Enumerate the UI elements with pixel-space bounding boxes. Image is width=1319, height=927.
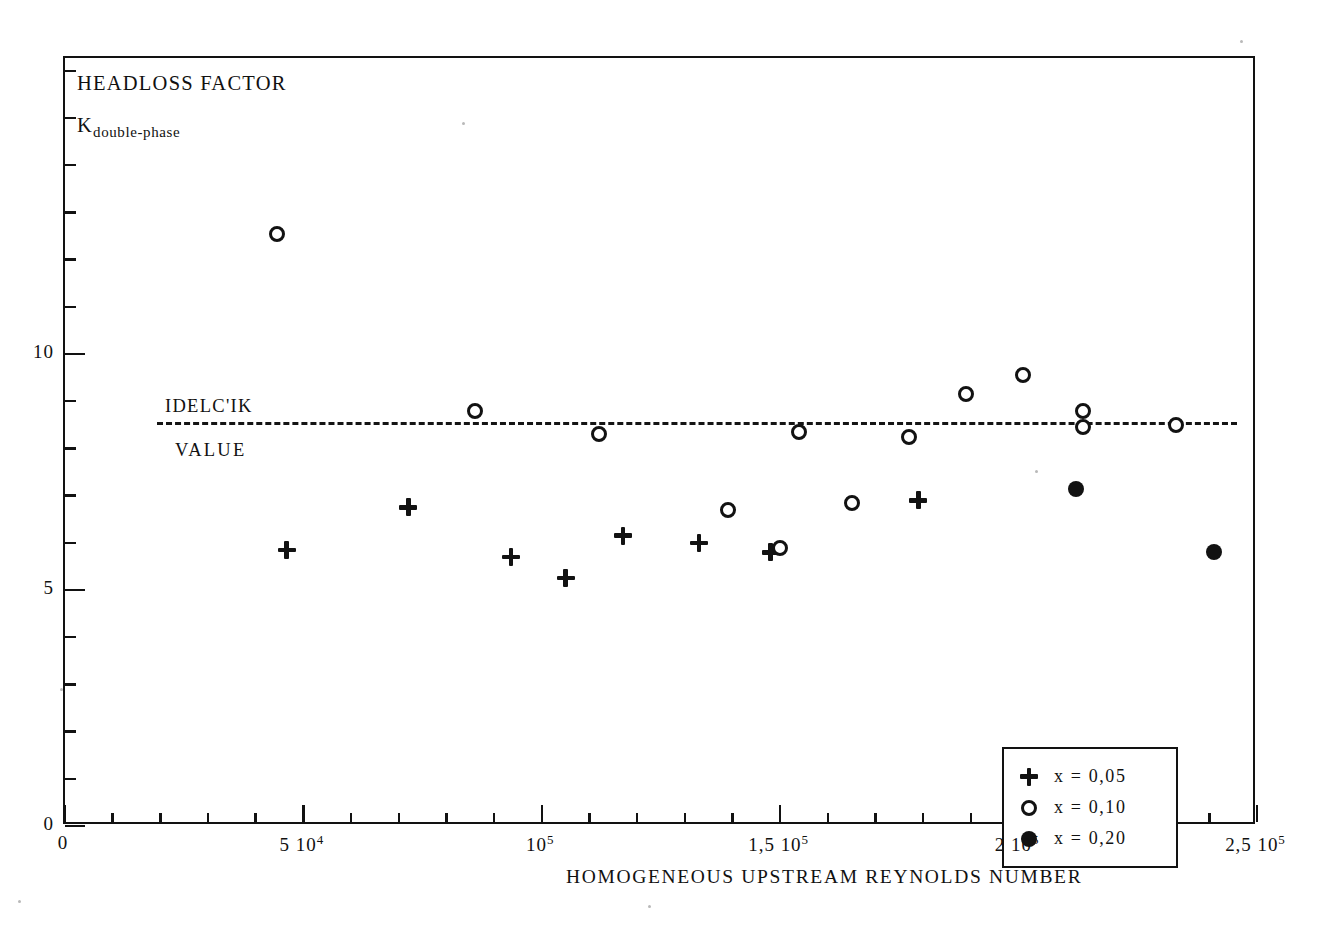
x-tick-minor [207, 813, 210, 822]
legend-label: x = 0,05 [1054, 766, 1127, 787]
y-tick-minor [65, 542, 76, 545]
x-tick-major [1256, 805, 1259, 822]
y-tick-minor [65, 636, 76, 639]
x-tick-label: 1,5 105 [748, 832, 808, 856]
open-circle-marker [791, 424, 807, 440]
y-tick-major [65, 589, 85, 592]
legend-item: x = 0,05 [1018, 761, 1172, 792]
scan-speck [1035, 470, 1038, 473]
y-tick-minor [65, 447, 76, 450]
open-circle-marker [269, 226, 285, 242]
y-tick-minor [65, 258, 76, 261]
x-tick-major [64, 805, 67, 822]
legend-label: x = 0,20 [1054, 828, 1127, 849]
x-tick-label: 5 104 [280, 832, 324, 856]
x-tick-minor [731, 813, 734, 822]
y-axis-title-symbol: K [77, 114, 93, 136]
x-tick-label: 2,5 105 [1225, 832, 1285, 856]
filled-circle-marker [1206, 544, 1222, 560]
x-tick-minor [445, 813, 448, 822]
y-tick-minor [65, 211, 76, 214]
x-tick-minor [588, 813, 591, 822]
x-tick-minor [1208, 813, 1211, 822]
filled-circle-marker [1068, 481, 1084, 497]
y-tick-label: 0 [14, 813, 54, 835]
x-tick-minor [159, 813, 162, 822]
y-tick-minor [65, 117, 76, 120]
x-tick-minor [827, 813, 830, 822]
open-circle-marker [591, 426, 607, 442]
plus-marker [277, 540, 297, 560]
open-circle-marker [901, 429, 917, 445]
legend-swatch [1018, 766, 1040, 788]
x-tick-minor [493, 813, 496, 822]
idelcik-reference-label-top: IDELC'IK [165, 396, 253, 417]
y-axis-title-line2: Kdouble-phase [77, 114, 180, 141]
scan-speck [648, 905, 651, 908]
x-tick-minor [922, 813, 925, 822]
y-tick-minor [65, 164, 76, 167]
x-tick-label: 2 105 [995, 832, 1039, 856]
plot-frame: HEADLOSS FACTOR Kdouble-phase IDELC'IK V… [63, 56, 1255, 824]
x-tick-minor [684, 813, 687, 822]
y-tick-minor [65, 494, 76, 497]
y-tick-label: 5 [14, 577, 54, 599]
legend-label: x = 0,10 [1054, 797, 1127, 818]
x-tick-major [779, 805, 782, 822]
scan-speck [1240, 40, 1243, 43]
x-tick-minor [398, 813, 401, 822]
x-tick-minor [636, 813, 639, 822]
plus-marker [398, 497, 418, 517]
open-circle-marker [720, 502, 736, 518]
x-tick-minor [111, 813, 114, 822]
plus-marker [556, 568, 576, 588]
x-tick-major [541, 805, 544, 822]
open-circle-marker [958, 386, 974, 402]
y-axis-title-subscript: double-phase [93, 124, 180, 140]
open-circle-marker [1015, 367, 1031, 383]
plus-marker [501, 547, 521, 567]
idelcik-reference-label-bottom: VALUE [175, 440, 246, 461]
x-tick-minor [350, 813, 353, 822]
plus-marker [908, 490, 928, 510]
x-tick-label: 105 [526, 832, 553, 856]
y-tick-minor [65, 778, 76, 781]
legend-item: x = 0,20 [1018, 823, 1172, 854]
open-circle-marker [844, 495, 860, 511]
legend-swatch [1018, 797, 1040, 819]
scan-speck [60, 688, 63, 691]
open-circle-marker [772, 540, 788, 556]
x-axis-title: HOMOGENEOUS UPSTREAM REYNOLDS NUMBER [566, 866, 1082, 888]
plus-marker [1019, 767, 1039, 787]
open-circle-marker [1075, 419, 1091, 435]
y-tick-minor [65, 683, 76, 686]
x-tick-label: 0 [58, 832, 68, 854]
y-tick-minor [65, 730, 76, 733]
y-axis-title-line1: HEADLOSS FACTOR [77, 72, 287, 95]
y-tick-minor [65, 70, 76, 73]
open-circle-marker [1075, 403, 1091, 419]
x-tick-minor [874, 813, 877, 822]
y-tick-label: 10 [14, 341, 54, 363]
x-tick-major [302, 805, 305, 822]
y-tick-major [65, 353, 85, 356]
figure-page: HEADLOSS FACTOR Kdouble-phase IDELC'IK V… [0, 0, 1319, 927]
open-circle-marker [467, 403, 483, 419]
y-tick-minor [65, 306, 76, 309]
y-tick-minor [65, 400, 76, 403]
x-tick-minor [970, 813, 973, 822]
scan-speck [18, 900, 21, 903]
open-circle-marker [1168, 417, 1184, 433]
plus-marker [689, 533, 709, 553]
scan-speck [462, 122, 465, 125]
open-circle-marker [1021, 800, 1037, 816]
x-tick-minor [254, 813, 257, 822]
y-tick-major [65, 825, 85, 828]
legend-item: x = 0,10 [1018, 792, 1172, 823]
plus-marker [613, 526, 633, 546]
